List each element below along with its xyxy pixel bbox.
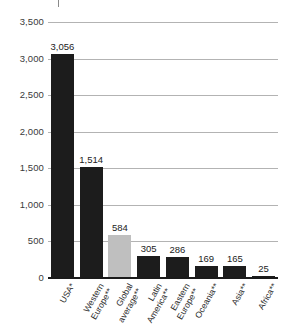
x-axis-label-usa: USA* bbox=[59, 282, 78, 305]
x-axis-label-africa: Africa** bbox=[256, 282, 279, 312]
bar[interactable] bbox=[108, 235, 131, 278]
x-axis-label-asia: Asia** bbox=[230, 282, 250, 307]
y-tick-label-1000: 1,000 bbox=[0, 200, 44, 210]
bar[interactable] bbox=[51, 54, 74, 278]
y-tick-label-1500: 1,500 bbox=[0, 163, 44, 173]
x-axis-category-labels: USA*WesternEurope**Globalaverage**LatinA… bbox=[48, 282, 278, 335]
bar-group[interactable]: 3,056 bbox=[51, 22, 74, 278]
plot-area: 3,0561,51458430528616916525 bbox=[48, 22, 278, 278]
y-tick-label-2000: 2,000 bbox=[0, 127, 44, 137]
x-axis-line bbox=[48, 277, 278, 279]
top-edge-artifact bbox=[58, 0, 59, 7]
bar-value-label: 25 bbox=[234, 264, 285, 274]
bar-group[interactable]: 169 bbox=[195, 22, 218, 278]
y-tick-label-3000: 3,000 bbox=[0, 54, 44, 64]
bar-group[interactable]: 165 bbox=[223, 22, 246, 278]
bar[interactable] bbox=[137, 256, 160, 278]
bar-group[interactable]: 286 bbox=[166, 22, 189, 278]
bar-chart: 05001,0001,5002,0002,5003,0003,500 3,056… bbox=[0, 0, 285, 335]
y-tick-label-500: 500 bbox=[0, 236, 44, 246]
bar-group[interactable]: 25 bbox=[252, 22, 275, 278]
bar-group[interactable]: 584 bbox=[108, 22, 131, 278]
y-tick-label-0: 0 bbox=[0, 273, 44, 283]
x-axis-label-line: Asia** bbox=[230, 282, 250, 307]
x-axis-label-oceania: Oceania** bbox=[194, 282, 222, 320]
bar-series: 3,0561,51458430528616916525 bbox=[48, 22, 278, 278]
bar-group[interactable]: 1,514 bbox=[80, 22, 103, 278]
y-tick-label-3500: 3,500 bbox=[0, 17, 44, 27]
x-axis-label-line: USA* bbox=[59, 282, 78, 305]
bar-group[interactable]: 305 bbox=[137, 22, 160, 278]
x-axis-label-line: Africa** bbox=[256, 282, 279, 312]
x-axis-label-latin-america: LatinAmerica** bbox=[137, 282, 173, 325]
y-tick-label-2500: 2,500 bbox=[0, 90, 44, 100]
x-axis-label-global-average: Globalaverage** bbox=[108, 282, 143, 324]
x-axis-label-line: Oceania** bbox=[194, 282, 222, 320]
